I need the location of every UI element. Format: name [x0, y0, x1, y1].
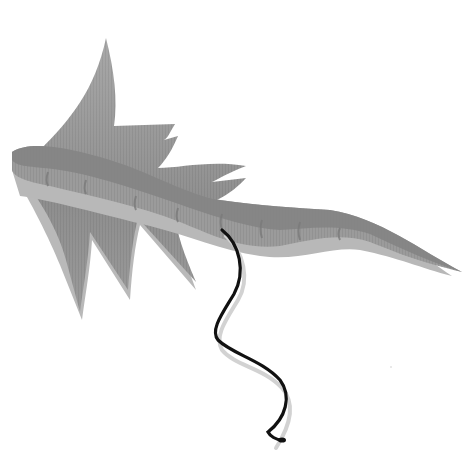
illustration-canvas: [0, 0, 473, 475]
tether-shadow: [219, 236, 290, 448]
tether-end-knot: [278, 437, 286, 442]
speck: [390, 366, 392, 368]
tether-line: [215, 230, 286, 440]
